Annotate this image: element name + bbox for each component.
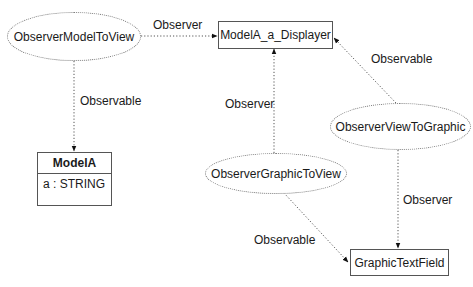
class-name: ModelA	[38, 153, 111, 174]
node-label: ObserverViewToGraphic	[336, 120, 466, 134]
node-observer-view-to-graphic[interactable]: ObserverViewToGraphic	[330, 103, 471, 150]
edge-label-observable: Observable	[371, 52, 432, 66]
node-observer-graphic-to-view[interactable]: ObserverGraphicToView	[205, 153, 347, 194]
node-label: GraphicTextField	[354, 256, 444, 270]
edge-label-observer: Observer	[225, 97, 274, 111]
node-modela-class[interactable]: ModelA a : STRING	[37, 152, 112, 206]
node-observer-model-to-view[interactable]: ObserverModelToView	[7, 12, 141, 61]
edge-label-observable: Observable	[254, 233, 315, 247]
edge-graphictoview-textfield	[284, 193, 348, 262]
class-attribute: a : STRING	[38, 174, 111, 191]
edge-label-observer: Observer	[153, 18, 202, 32]
node-label: ModelA_a_Displayer	[220, 28, 331, 42]
node-graphic-text-field[interactable]: GraphicTextField	[350, 249, 449, 276]
node-label: ObserverGraphicToView	[211, 167, 341, 181]
node-modela-a-displayer[interactable]: ModelA_a_Displayer	[218, 21, 333, 49]
edge-viewtographic-displayer	[334, 38, 396, 103]
edge-label-observable: Observable	[80, 94, 141, 108]
edge-label-observer: Observer	[403, 193, 452, 207]
node-label: ObserverModelToView	[14, 30, 135, 44]
